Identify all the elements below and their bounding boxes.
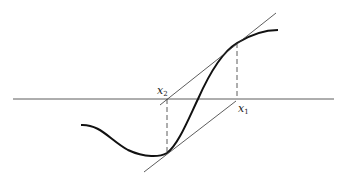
label-x2: x2 (157, 84, 168, 98)
tangent-line-lower (144, 101, 236, 172)
label-x1: x1 (238, 102, 249, 116)
tangent-line-upper (160, 13, 276, 105)
diagram-canvas: x2 x1 (0, 0, 342, 180)
s-curve (81, 30, 278, 156)
